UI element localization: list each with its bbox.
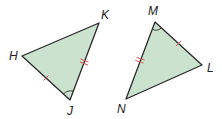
vertex-label-j: J xyxy=(66,104,74,118)
vertex-label-k: K xyxy=(101,8,110,22)
vertex-label-n: N xyxy=(117,102,126,116)
vertex-label-l: L xyxy=(207,61,214,75)
triangle-lmn: M L N xyxy=(117,4,214,116)
congruent-triangles-diagram: H K J M L N xyxy=(0,0,222,119)
triangle-lmn-shape xyxy=(126,22,202,99)
vertex-label-h: H xyxy=(9,49,18,63)
vertex-label-m: M xyxy=(148,4,158,18)
triangle-hjk: H K J xyxy=(9,8,110,118)
